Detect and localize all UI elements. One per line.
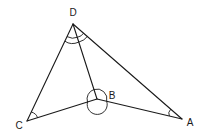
angle-mark-a	[169, 109, 171, 116]
vertex-label-b: B	[109, 90, 116, 101]
vertex-label-c: C	[15, 120, 22, 131]
angle-mark-c	[31, 112, 37, 118]
angle-mark-d-bda	[77, 33, 83, 37]
angle-mark-d-cda-outer	[65, 41, 79, 43]
angle-mark-b-reflex	[87, 101, 107, 114]
segment-db	[73, 24, 97, 99]
angle-mark-d-cdb	[67, 37, 77, 39]
geometry-diagram: D B C A	[0, 0, 205, 139]
vertex-label-d: D	[69, 7, 76, 18]
angle-mark-d-bda-outer	[79, 37, 88, 43]
segment-da	[73, 24, 182, 119]
vertex-label-a: A	[187, 117, 194, 128]
segment-dc	[27, 24, 73, 121]
